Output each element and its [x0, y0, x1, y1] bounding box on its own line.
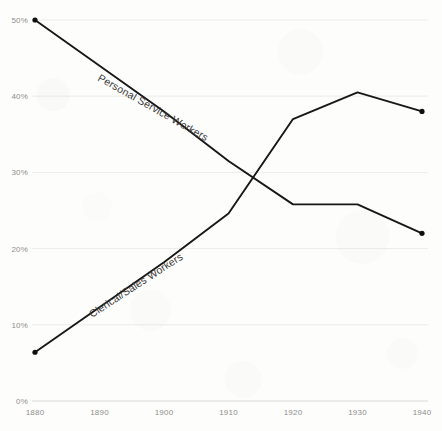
chart-svg: 0%10%20%30%40%50% 1880189019001910192019… — [0, 0, 442, 431]
series-lines — [35, 20, 422, 352]
y-tick-label: 0% — [16, 397, 28, 406]
y-tick-label: 10% — [11, 321, 28, 330]
series-line — [35, 20, 422, 233]
x-tick-label: 1940 — [413, 408, 432, 417]
series-endpoint-marker — [419, 109, 424, 114]
series-inline-label: Clerical/Sales Workers — [87, 250, 185, 320]
series-inline-label: Personal Service Workers — [96, 71, 211, 143]
series-endpoint-marker — [32, 17, 37, 22]
y-tick-label: 40% — [11, 92, 28, 101]
x-axis-tick-labels: 1880189019001910192019301940 — [26, 408, 432, 417]
y-tick-label: 50% — [11, 16, 28, 25]
x-tick-label: 1920 — [284, 408, 303, 417]
y-tick-label: 20% — [11, 245, 28, 254]
line-chart: 0%10%20%30%40%50% 1880189019001910192019… — [0, 0, 442, 431]
y-axis-tick-labels: 0%10%20%30%40%50% — [11, 16, 28, 406]
x-tick-label: 1930 — [348, 408, 367, 417]
series-endpoint-marker — [419, 231, 424, 236]
x-tick-label: 1900 — [155, 408, 174, 417]
series-inline-labels: Personal Service WorkersClerical/Sales W… — [87, 71, 211, 319]
series-endpoint-markers — [32, 17, 424, 354]
y-tick-label: 30% — [11, 168, 28, 177]
x-tick-label: 1880 — [26, 408, 45, 417]
x-tick-label: 1890 — [90, 408, 109, 417]
series-endpoint-marker — [32, 350, 37, 355]
x-tick-label: 1910 — [219, 408, 238, 417]
